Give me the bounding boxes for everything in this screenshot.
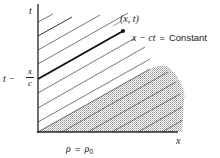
region-eq: = (75, 143, 81, 154)
point-marker (121, 29, 125, 33)
intercept-prefix: t − (3, 74, 15, 84)
region-lhs: ρ (66, 143, 71, 154)
characteristics-diagram: t x (x, t) x − ct = Constant t − x c ρ =… (0, 0, 220, 158)
x-axis-label: x (176, 136, 180, 146)
diagram-canvas (0, 0, 220, 158)
characteristic-rhs: Constant (169, 32, 207, 43)
highlighted-characteristic (38, 31, 123, 79)
characteristic-lhs: x − ct (132, 32, 155, 43)
t-axis-label: t (29, 6, 32, 16)
point-label: (x, t) (120, 14, 139, 24)
characteristic-eq: = (159, 32, 165, 43)
intercept-denominator: c (28, 79, 32, 88)
region-subscript: 0 (89, 148, 93, 155)
region-label: ρ = ρ0 (66, 138, 93, 156)
intercept-numerator: x (28, 67, 32, 76)
characteristic-equation: x − ct = Constant (132, 27, 207, 45)
point-leader (113, 22, 120, 26)
